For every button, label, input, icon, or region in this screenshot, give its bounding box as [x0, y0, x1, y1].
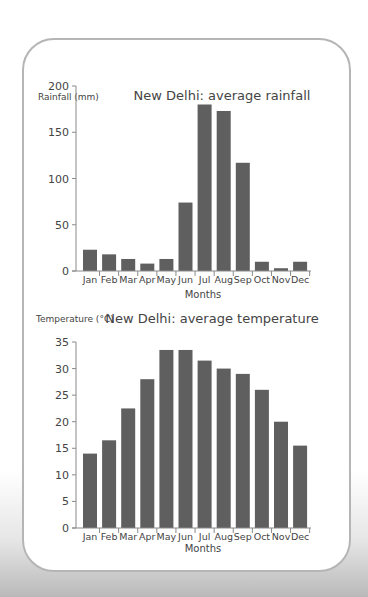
- x-tick-label: Aug: [214, 531, 233, 542]
- y-tick-label: 200: [48, 80, 69, 93]
- y-tick-label: 50: [55, 219, 69, 232]
- x-tick-label: Sep: [234, 531, 252, 542]
- x-tick-label: Jul: [198, 274, 210, 285]
- temperature-title: New Delhi: average temperature: [105, 311, 319, 326]
- bar: [83, 250, 97, 271]
- y-tick-label: 5: [62, 495, 69, 508]
- x-tick-label: Sep: [234, 274, 252, 285]
- bar: [102, 440, 116, 528]
- bar: [159, 350, 173, 528]
- rainfall-ylabel: Rainfall (mm): [38, 92, 99, 102]
- y-tick-label: 0: [62, 265, 69, 278]
- charts-canvas: Rainfall (mm) New Delhi: average rainfal…: [0, 0, 368, 597]
- bar: [140, 264, 154, 271]
- x-tick-label: Feb: [101, 274, 118, 285]
- rainfall-bars: [83, 105, 307, 272]
- bar: [255, 390, 269, 528]
- bar: [179, 350, 193, 528]
- y-tick-label: 30: [55, 363, 69, 376]
- bar: [198, 105, 212, 272]
- temperature-y-axis: 05101520253035: [55, 336, 76, 535]
- bar: [121, 259, 135, 271]
- y-tick-label: 10: [55, 469, 69, 482]
- temperature-xlabel: Months: [185, 543, 222, 554]
- y-tick-label: 15: [55, 442, 69, 455]
- x-tick-label: Dec: [291, 274, 309, 285]
- x-tick-label: Apr: [139, 531, 156, 542]
- x-tick-label: Jun: [177, 531, 193, 542]
- x-tick-label: Mar: [119, 274, 137, 285]
- x-tick-label: Jan: [82, 531, 98, 542]
- y-tick-label: 150: [48, 126, 69, 139]
- x-tick-label: Oct: [254, 274, 271, 285]
- rainfall-title: New Delhi: average rainfall: [134, 88, 311, 103]
- x-tick-label: Feb: [101, 531, 118, 542]
- rainfall-y-axis: 050100150200: [48, 80, 76, 278]
- bar: [83, 454, 97, 528]
- x-tick-label: Oct: [254, 531, 271, 542]
- bar: [293, 446, 307, 528]
- x-tick-label: Jul: [198, 531, 210, 542]
- y-tick-label: 20: [55, 416, 69, 429]
- x-tick-label: Aug: [214, 274, 233, 285]
- rainfall-xlabel: Months: [185, 289, 222, 300]
- bar: [179, 203, 193, 271]
- bar: [274, 422, 288, 528]
- x-tick-label: May: [157, 274, 177, 285]
- bar: [255, 262, 269, 271]
- x-tick-label: Dec: [291, 531, 309, 542]
- bar: [293, 262, 307, 271]
- bar: [236, 163, 250, 271]
- temperature-chart: Temperature (°C) New Delhi: average temp…: [35, 311, 319, 554]
- y-tick-label: 100: [48, 173, 69, 186]
- x-tick-label: Nov: [272, 531, 291, 542]
- x-tick-label: Apr: [139, 274, 156, 285]
- bar: [217, 369, 231, 528]
- bar: [159, 259, 173, 271]
- y-tick-label: 25: [55, 389, 69, 402]
- rainfall-chart: Rainfall (mm) New Delhi: average rainfal…: [38, 80, 311, 300]
- temperature-ylabel: Temperature (°C): [35, 314, 114, 324]
- y-tick-label: 0: [62, 522, 69, 535]
- temperature-bars: [83, 350, 307, 528]
- x-tick-label: Mar: [119, 531, 137, 542]
- bar: [217, 111, 231, 271]
- x-tick-label: Jun: [177, 274, 193, 285]
- bar: [140, 379, 154, 528]
- y-tick-label: 35: [55, 336, 69, 349]
- bar: [198, 361, 212, 528]
- bar: [102, 254, 116, 271]
- bar: [236, 374, 250, 528]
- rainfall-x-axis: JanFebMarAprMayJunJulAugSepOctNovDec: [72, 271, 311, 285]
- temperature-x-axis: JanFebMarAprMayJunJulAugSepOctNovDec: [72, 528, 311, 542]
- bar: [121, 408, 135, 528]
- x-tick-label: May: [157, 531, 177, 542]
- x-tick-label: Jan: [82, 274, 98, 285]
- x-tick-label: Nov: [272, 274, 291, 285]
